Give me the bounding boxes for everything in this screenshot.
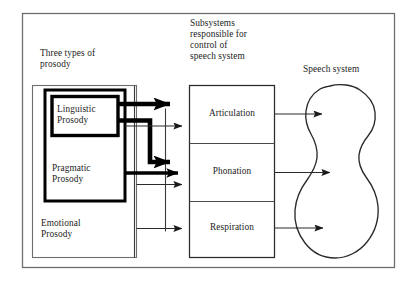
pragmatic-prosody-label: Pragmatic Prosody (52, 163, 122, 185)
phonation-label: Phonation (190, 166, 274, 177)
articulation-label: Articulation (190, 108, 274, 119)
prosody-speech-system-diagram: Three types of prosody Linguistic Prosod… (0, 0, 417, 284)
prosody-group-title: Three types of prosody (40, 48, 140, 70)
linguistic-prosody-label: Linguistic Prosody (57, 104, 119, 126)
speech-system-shape (295, 85, 378, 258)
speech-system-label: Speech system (303, 64, 399, 75)
respiration-label: Respiration (190, 222, 274, 233)
emotional-prosody-label: Emotional Prosody (41, 218, 113, 240)
subsystems-group-title: Subsystems responsible for control of sp… (190, 18, 302, 62)
